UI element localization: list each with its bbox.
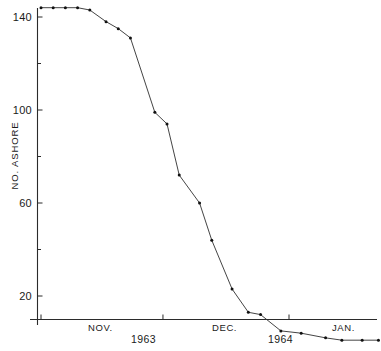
data-point — [210, 239, 213, 242]
data-point-markers — [40, 6, 380, 341]
data-point — [279, 329, 282, 332]
data-point — [247, 311, 250, 314]
data-point — [231, 288, 234, 291]
data-point — [129, 36, 132, 39]
data-point — [198, 202, 201, 205]
data-point — [117, 27, 120, 30]
data-point — [76, 6, 79, 9]
data-point — [178, 174, 181, 177]
data-point — [153, 111, 156, 114]
data-point — [52, 6, 55, 9]
y-tick-marks — [38, 17, 43, 296]
plot-area — [0, 0, 381, 351]
data-point — [300, 332, 303, 335]
data-point — [64, 6, 67, 9]
x-tick-marks — [41, 315, 289, 320]
data-line-no-ashore — [41, 8, 378, 340]
data-point — [88, 9, 91, 12]
data-point — [377, 339, 380, 342]
data-point — [105, 20, 108, 23]
data-point — [166, 122, 169, 125]
data-point — [340, 339, 343, 342]
data-point — [324, 336, 327, 339]
data-point — [259, 313, 262, 316]
data-point — [361, 339, 364, 342]
chart-figure: NO. ASHORE 140 100 60 20 NOV. DEC. JAN. … — [0, 0, 381, 351]
data-point — [40, 6, 43, 9]
